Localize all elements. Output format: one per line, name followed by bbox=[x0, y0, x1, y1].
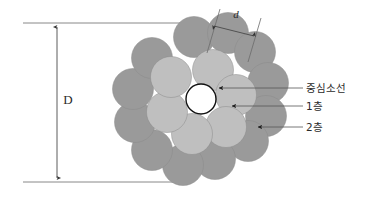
wire-rope-cross-section-diagram: D d 중심소선 1층 2층 bbox=[0, 0, 369, 200]
outer-diameter-label: D bbox=[63, 92, 72, 107]
annotation-label-layer-1: 1층 bbox=[306, 100, 323, 112]
strand-diameter-label: d bbox=[233, 8, 239, 20]
figure-root: D d 중심소선 1층 2층 bbox=[0, 0, 369, 200]
layer1-wire bbox=[147, 92, 188, 133]
annotation-label-center-strand: 중심소선 bbox=[306, 82, 346, 94]
annotation-label-layer-2: 2층 bbox=[306, 121, 323, 133]
layer1-wire bbox=[151, 57, 192, 98]
center-strand-circle bbox=[186, 84, 216, 114]
layer1-wire bbox=[206, 107, 247, 148]
center-strand-wire bbox=[186, 84, 216, 114]
